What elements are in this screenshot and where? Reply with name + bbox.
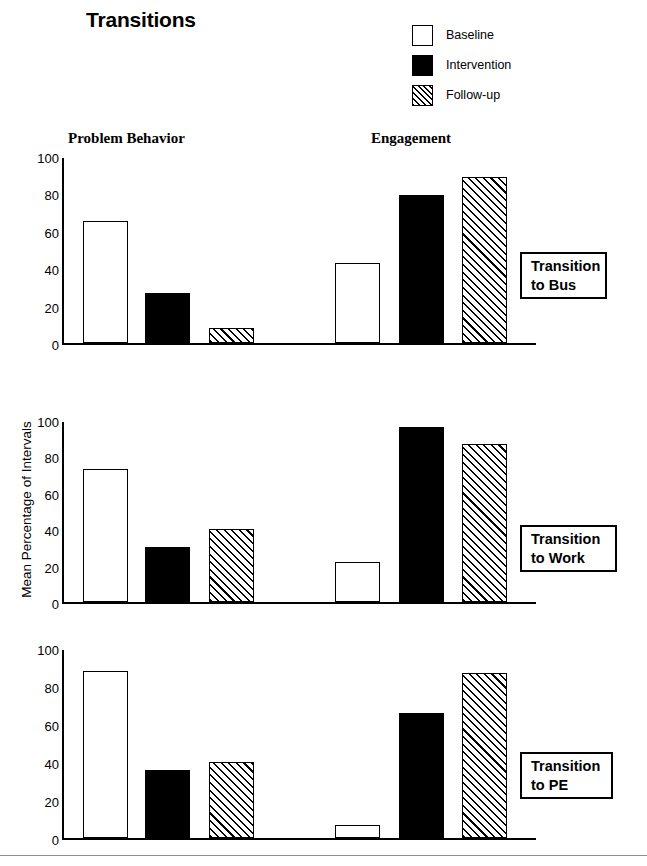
y-tick-label-100: 100 [37, 416, 59, 429]
y-tick-label-40: 40 [45, 264, 59, 277]
y-tick-label-0: 0 [52, 834, 59, 847]
y-tick-label-20: 20 [45, 301, 59, 314]
y-tick-label-0: 0 [52, 598, 59, 611]
hatched-square-icon [412, 85, 433, 106]
legend-label-followup: Follow-up [446, 88, 500, 102]
condition-label-box-2: Transition to Work [520, 525, 617, 572]
y-tick-label-100: 100 [37, 644, 59, 657]
bar-problem-behavior-baseline [83, 671, 128, 838]
legend-label-intervention: Intervention [446, 58, 511, 72]
legend-item-intervention: Intervention [412, 50, 602, 80]
legend-label-baseline: Baseline [446, 28, 494, 42]
y-tick-label-20: 20 [45, 561, 59, 574]
y-tick-label-0: 0 [52, 339, 59, 352]
condition-label-text: Transition to Work [531, 530, 600, 566]
panel-plot-1: 100806040200 [62, 158, 536, 345]
bar-engagement-intervention [399, 427, 444, 602]
bar-problem-behavior-baseline [83, 469, 128, 602]
legend-item-followup: Follow-up [412, 80, 602, 110]
y-tick-label-80: 80 [45, 682, 59, 695]
bar-engagement-intervention [399, 713, 444, 838]
panel-plot-3: 100806040200 [62, 650, 536, 840]
condition-label-box-1: Transition to Bus [520, 252, 607, 299]
bar-problem-behavior-intervention [145, 293, 190, 343]
filled-square-icon [412, 55, 433, 76]
bar-engagement-intervention [399, 195, 444, 343]
bar-engagement-baseline [335, 825, 380, 838]
condition-label-box-3: Transition to PE [520, 752, 613, 799]
panel-plot-2: 100806040200 [62, 422, 536, 604]
y-tick-label-80: 80 [45, 452, 59, 465]
figure-title: Transitions [86, 8, 196, 32]
y-tick-label-60: 60 [45, 720, 59, 733]
bar-problem-behavior-follow-up [209, 529, 254, 602]
condition-label-text: Transition to PE [531, 757, 600, 793]
y-tick-label-40: 40 [45, 525, 59, 538]
bar-engagement-baseline [335, 263, 380, 343]
legend-item-baseline: Baseline [412, 20, 602, 50]
y-tick-label-80: 80 [45, 189, 59, 202]
y-tick-label-60: 60 [45, 488, 59, 501]
bar-problem-behavior-follow-up [209, 328, 254, 343]
y-tick-label-100: 100 [37, 152, 59, 165]
open-square-icon [412, 25, 433, 46]
bar-engagement-follow-up [462, 673, 507, 838]
bar-problem-behavior-intervention [145, 547, 190, 602]
figure-root: Transitions Baseline Intervention Follow… [0, 0, 647, 866]
bar-engagement-baseline [335, 562, 380, 602]
group-header-engagement: Engagement [371, 130, 451, 147]
bar-problem-behavior-follow-up [209, 762, 254, 838]
bar-problem-behavior-baseline [83, 221, 128, 343]
y-axis-title: Mean Percentage of Intervals [19, 410, 34, 610]
condition-label-text: Transition to Bus [531, 257, 600, 293]
y-tick-label-60: 60 [45, 226, 59, 239]
legend: Baseline Intervention Follow-up [412, 20, 602, 110]
bottom-divider [0, 855, 647, 856]
y-tick-label-20: 20 [45, 796, 59, 809]
bar-engagement-follow-up [462, 177, 507, 343]
group-header-problem-behavior: Problem Behavior [68, 130, 185, 147]
bar-engagement-follow-up [462, 444, 507, 602]
y-tick-label-40: 40 [45, 758, 59, 771]
bar-problem-behavior-intervention [145, 770, 190, 838]
